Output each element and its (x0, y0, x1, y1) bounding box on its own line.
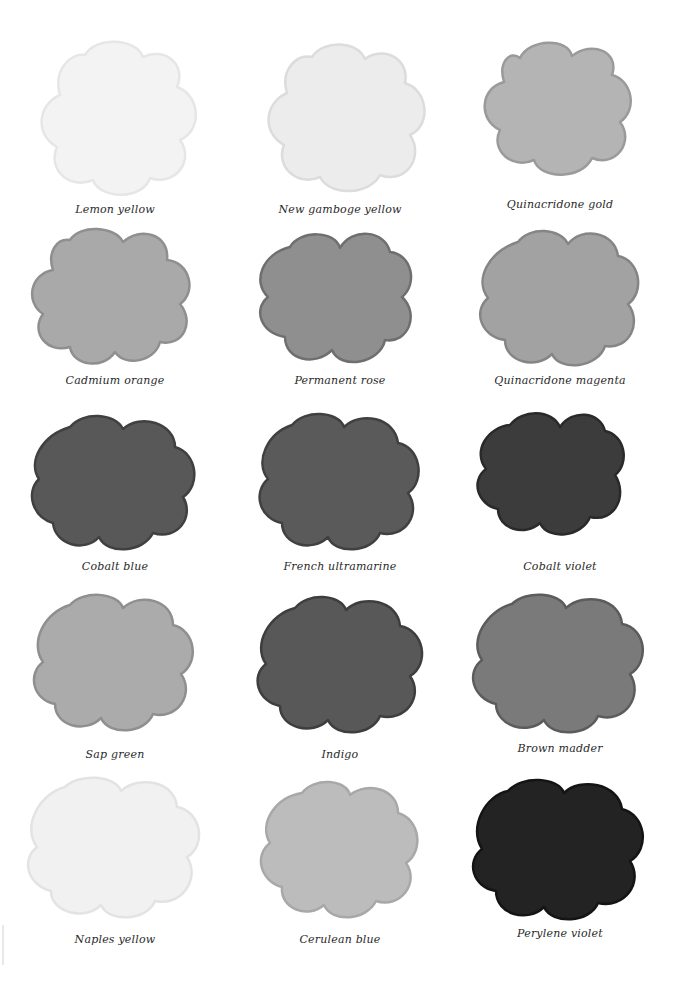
swatch-cobalt-violet (460, 405, 660, 570)
swatch-french-ultramarine (240, 405, 440, 570)
swatch-label: Cadmium orange (15, 374, 215, 387)
swatch-label: Perylene violet (460, 927, 660, 940)
swatch-quinacridone-magenta (460, 222, 660, 387)
swatch-cell: New gamboge yellow (240, 35, 440, 225)
swatch-cell: Perylene violet (460, 775, 660, 965)
swatch-cell: Quinacridone magenta (460, 222, 660, 412)
swatch-cell: Cobalt blue (15, 405, 215, 595)
swatch-label: Naples yellow (15, 933, 215, 946)
swatch-cell: Lemon yellow (15, 35, 215, 225)
swatch-cell: Naples yellow (15, 775, 215, 965)
swatch-label: Permanent rose (240, 374, 440, 387)
swatch-cobalt-blue (15, 405, 215, 570)
page-edge-mark (2, 925, 4, 965)
swatch-label: Brown madder (460, 742, 660, 755)
swatch-cell: Brown madder (460, 590, 660, 780)
swatch-label: Indigo (240, 748, 440, 761)
swatch-brown-madder (460, 590, 660, 755)
swatch-quinacridone-gold (460, 30, 660, 195)
swatch-label: Quinacridone gold (460, 198, 660, 211)
swatch-cell: Quinacridone gold (460, 30, 660, 220)
swatch-cell: Indigo (240, 590, 440, 780)
swatch-new-gamboge-yellow (240, 35, 440, 200)
swatch-cell: Cerulean blue (240, 775, 440, 965)
swatch-perylene-violet (460, 775, 660, 940)
swatch-label: French ultramarine (240, 560, 440, 573)
swatch-label: Cobalt violet (460, 560, 660, 573)
swatch-label: Sap green (15, 748, 215, 761)
swatch-label: Quinacridone magenta (460, 374, 660, 387)
swatch-cell: French ultramarine (240, 405, 440, 595)
swatch-cell: Sap green (15, 590, 215, 780)
swatch-naples-yellow (15, 775, 215, 940)
swatch-label: New gamboge yellow (240, 203, 440, 216)
swatch-cell: Cadmium orange (15, 222, 215, 412)
watercolor-swatch-plate: Lemon yellow New gamboge yellow Quinacri… (0, 0, 673, 995)
swatch-cell: Cobalt violet (460, 405, 660, 595)
swatch-label: Cerulean blue (240, 933, 440, 946)
swatch-cerulean-blue (240, 775, 440, 940)
swatch-label: Lemon yellow (15, 203, 215, 216)
swatch-cell: Permanent rose (240, 222, 440, 412)
swatch-permanent-rose (240, 222, 440, 387)
swatch-sap-green (15, 590, 215, 755)
swatch-indigo (240, 590, 440, 755)
swatch-lemon-yellow (15, 35, 215, 200)
swatch-label: Cobalt blue (15, 560, 215, 573)
swatch-cadmium-orange (15, 222, 215, 387)
